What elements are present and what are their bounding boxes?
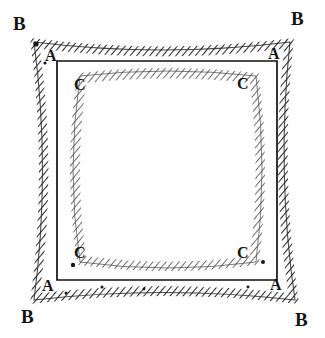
label-c-top-right: C: [237, 76, 249, 92]
label-c-bottom-left: C: [74, 245, 86, 261]
label-a-bottom-left: A: [42, 278, 54, 294]
label-c-top-left: C: [74, 77, 86, 93]
figure-container: B B B B A A A A C C C C: [0, 0, 325, 338]
label-b-top-right: B: [291, 9, 304, 28]
label-a-bottom-right: A: [270, 277, 282, 293]
label-c-bottom-right: C: [237, 245, 249, 261]
label-a-top-right: A: [268, 46, 280, 62]
label-b-bottom-right: B: [295, 310, 308, 329]
label-b-bottom-left: B: [21, 307, 34, 326]
label-b-top-left: B: [13, 14, 26, 33]
label-a-top-left: A: [45, 48, 57, 64]
